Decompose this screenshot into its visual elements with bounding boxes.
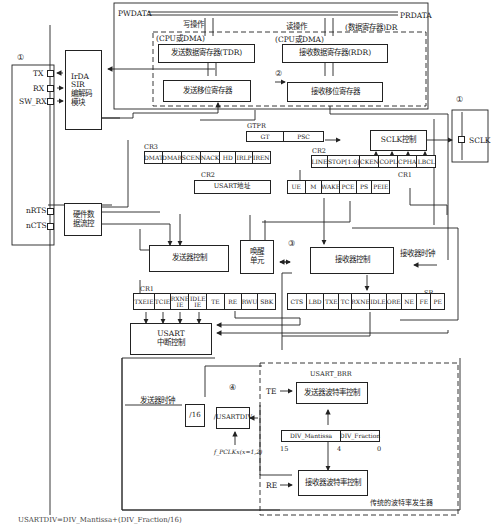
cr3-register: DMAT DMAR SCEN NACK HD IRLP IREN: [144, 151, 271, 164]
cr3-scen: SCEN: [182, 152, 201, 163]
baud-generator-label: 传统的波特率发生器: [370, 500, 433, 507]
cr3-dmat: DMAT: [145, 152, 163, 163]
cr1-tcie: TCIE: [155, 294, 172, 309]
gtpr-gt: GT: [247, 132, 284, 141]
transmitter-control-block: 发送器控制: [149, 245, 229, 272]
brr-div-mantissa: DIV_Mantissa: [282, 431, 341, 441]
rx-shift-block: 接收移位寄存器: [287, 82, 383, 102]
cr2-cken: CKEN: [360, 156, 379, 167]
pin-nrts-label: nRTS: [26, 207, 47, 215]
prdata-label: PRDATA: [400, 12, 432, 20]
sr-fe: FE: [417, 294, 431, 309]
cr2-addr-label: CR2: [201, 172, 215, 179]
pin-rx: [47, 85, 54, 92]
gtpr-register: GT PSC: [246, 131, 324, 142]
cr1-bottom-label: CR1: [140, 286, 154, 293]
sr-txe: TXE: [324, 294, 339, 309]
cr1-rwu: RWU: [242, 294, 259, 309]
pin-sw-rx: [47, 98, 54, 105]
gtpr-label: GTPR: [247, 123, 266, 130]
cr2-top-register: LINE STOP[1:0] CKEN COPL CPHA LBCL: [311, 155, 436, 168]
tx-baud-control-block: 发送器波特率控制: [296, 382, 368, 404]
irda-block: IrDA SIR 编解码 模块: [65, 50, 102, 130]
cr3-label: CR3: [144, 144, 158, 151]
dr-label: (数据寄存器)DR: [345, 24, 398, 32]
sr-lbd: LBD: [307, 294, 325, 309]
cr2-stop: STOP[1:0]: [328, 156, 360, 167]
pin-sw-rx-label: SW_RX: [19, 98, 47, 106]
cr1-top-label: CR1: [398, 172, 412, 179]
fpclk-label: f_PCLKx(x=1,2): [214, 449, 262, 455]
brr-bit-4: 4: [337, 446, 341, 453]
cr1-top-register: UE M WAKE PCE PS PEIE: [287, 180, 390, 194]
cr1-m: M: [306, 181, 323, 193]
sr-pe: PE: [431, 294, 444, 309]
write-op-label: 写操作: [183, 21, 204, 29]
pin-rx-label: RX: [33, 85, 44, 93]
cr2-top-label: CR2: [312, 148, 326, 155]
cr1-pce: PCE: [340, 181, 357, 193]
pwdata-label: PWDATA: [118, 10, 152, 18]
cr2-cpha: CPHA: [398, 156, 418, 167]
usart-interrupt-control-block: USART 中断控制: [130, 323, 212, 355]
tx-shift-block: 发送移位寄存器: [163, 80, 251, 102]
cr1-txeie: TXEIE: [134, 294, 155, 309]
usart-address-block: USART地址: [194, 180, 271, 194]
pin-tx: [47, 70, 54, 77]
rx-baud-control-block: 接收器波特率控制: [298, 470, 368, 496]
marker-4: ④: [229, 384, 236, 392]
pin-nrts: [47, 208, 54, 215]
usartdiv-block: /USARTDIV: [216, 407, 250, 429]
cr2-line: LINE: [312, 156, 328, 167]
marker-1-left: ①: [17, 54, 24, 62]
cr1-idleie: IDLE IE: [189, 294, 207, 309]
te-signal-label: TE: [266, 388, 276, 396]
cpu-dma-tx-label: (CPU或DMA): [156, 35, 205, 43]
brr-bit-0: 0: [377, 446, 381, 453]
receiver-clock-label: 接收器时钟: [400, 250, 435, 258]
cr1-peie: PEIE: [372, 181, 389, 193]
cr3-nack: NACK: [201, 152, 220, 163]
cr3-irlp: IRLP: [236, 152, 252, 163]
sr-idle: IDLE: [370, 294, 387, 309]
brr-bit-15: 15: [280, 446, 288, 453]
pin-ncts-label: nCTS: [26, 222, 47, 230]
cr1-rxneie: RXNE IE: [171, 294, 189, 309]
transmitter-clock-label: 发送器时钟: [140, 397, 175, 405]
marker-2: ②: [275, 70, 282, 78]
cr2-copl: COPL: [379, 156, 398, 167]
pin-sclk-label: SCLK: [469, 137, 490, 145]
sr-rxne: RXNE: [352, 294, 370, 309]
wakeup-unit-block: 唤醒 单元: [240, 240, 274, 274]
marker-3: ③: [288, 240, 295, 248]
pin-tx-label: TX: [33, 70, 43, 78]
pin-ncts: [47, 223, 54, 230]
cr1-te: TE: [207, 294, 225, 309]
cr3-hd: HD: [220, 152, 236, 163]
sr-tc: TC: [339, 294, 352, 309]
sr-cts: CTS: [288, 294, 307, 309]
sr-ne: NE: [402, 294, 418, 309]
re-signal-label: RE: [266, 482, 277, 490]
pin-sclk: [458, 136, 465, 143]
usart-brr-label: USART_BRR: [310, 371, 352, 378]
cr1-ps: PS: [357, 181, 373, 193]
cr1-wake: WAKE: [322, 181, 340, 193]
tdr-block: 发送数据寄存器(TDR): [158, 44, 255, 63]
cr3-dmar: DMAR: [163, 152, 182, 163]
sclk-control-block: SCLK控制: [370, 130, 427, 151]
cr1-ue: UE: [288, 181, 306, 193]
marker-1-right: ①: [456, 96, 463, 104]
brr-div-fraction: DIV_Fraction: [341, 431, 379, 441]
cr2-lbcl: LBCL: [417, 156, 435, 167]
hw-flow-control-block: 硬件数 据流控: [64, 203, 102, 236]
sr-ore: ORE: [387, 294, 402, 309]
cr1-bottom-register: TXEIE TCIE RXNE IE IDLE IE TE RE RWU SBK: [133, 293, 276, 310]
div16-block: /16: [185, 404, 205, 427]
gtpr-psc: PSC: [284, 132, 323, 141]
cr3-iren: IREN: [253, 152, 270, 163]
cr1-re: RE: [225, 294, 242, 309]
cpu-dma-rx-label: (CPU或DMA): [275, 36, 324, 44]
cr1-sbk: SBK: [258, 294, 275, 309]
figure-caption: USARTDIV=DIV_Mantissa+(DIV_Fraction/16): [18, 516, 182, 524]
